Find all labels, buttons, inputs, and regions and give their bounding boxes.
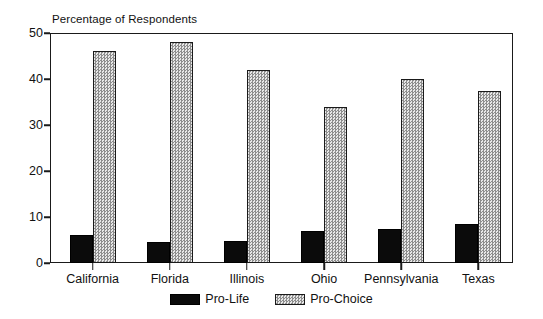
bar-texas-pro-life — [455, 224, 478, 263]
chart-title: Percentage of Respondents — [52, 13, 197, 25]
y-axis-tick-label: 30 — [29, 118, 43, 132]
legend-swatch-icon — [170, 294, 200, 305]
legend-item-pro-life: Pro-Life — [170, 292, 249, 306]
x-axis-tick — [169, 263, 171, 270]
x-axis-label-ohio: Ohio — [311, 272, 337, 286]
y-axis: 01020304050 — [0, 0, 50, 319]
x-axis-label-illinois: Illinois — [230, 272, 265, 286]
bar-illinois-pro-choice — [247, 70, 270, 263]
chart-legend: Pro-LifePro-Choice — [0, 292, 543, 306]
bar-ohio-pro-choice — [324, 107, 347, 263]
y-axis-tick-label: 40 — [29, 72, 43, 86]
y-axis-tick-label: 10 — [29, 210, 43, 224]
x-axis-label-florida: Florida — [151, 272, 189, 286]
bar-pennsylvania-pro-choice — [401, 79, 424, 263]
bar-ohio-pro-life — [301, 231, 324, 263]
legend-label: Pro-Life — [205, 292, 249, 306]
y-axis-tick-label: 0 — [36, 256, 43, 270]
x-axis-tick — [401, 263, 403, 270]
legend-label: Pro-Choice — [310, 292, 373, 306]
bar-california-pro-life — [70, 235, 93, 263]
y-axis-tick-label: 50 — [29, 26, 43, 40]
x-axis-tick — [478, 263, 480, 270]
y-axis-tick-label: 20 — [29, 164, 43, 178]
plot-area — [50, 33, 513, 263]
bar-pennsylvania-pro-life — [378, 229, 401, 264]
bar-illinois-pro-life — [224, 241, 247, 263]
x-axis-tick — [246, 263, 248, 270]
x-axis-tick — [323, 263, 325, 270]
x-axis-tick — [92, 263, 94, 270]
legend-item-pro-choice: Pro-Choice — [275, 292, 373, 306]
x-axis-label-texas: Texas — [462, 272, 495, 286]
bar-chart: Percentage of Respondents 01020304050 Pr… — [0, 0, 543, 319]
bar-florida-pro-life — [147, 242, 170, 263]
bar-texas-pro-choice — [478, 91, 501, 264]
bar-florida-pro-choice — [170, 42, 193, 263]
bar-california-pro-choice — [93, 51, 116, 263]
x-axis-label-california: California — [66, 272, 119, 286]
x-axis-label-pennsylvania: Pennsylvania — [364, 272, 438, 286]
legend-swatch-icon — [275, 294, 305, 305]
